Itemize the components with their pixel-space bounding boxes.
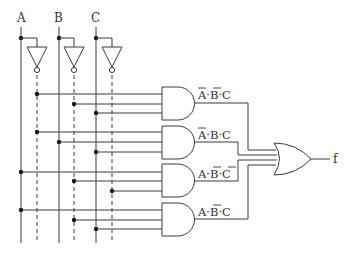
- inverter-c: [94, 36, 122, 243]
- or-gate-icon: [274, 143, 311, 175]
- inverter-triangle-icon: [102, 47, 122, 67]
- and-gate-icon: [162, 203, 195, 236]
- input-lines: [21, 27, 96, 243]
- and-gate-icon: [162, 164, 195, 197]
- and-gate-4: A·B·C: [19, 165, 276, 236]
- or-gate: f: [274, 143, 339, 175]
- and-gate-icon: [162, 87, 195, 120]
- output-label: f: [333, 152, 339, 166]
- inverter-bubble-icon: [34, 67, 39, 72]
- and-gate-1: A·B·C: [35, 87, 276, 150]
- term-2-text: A·B·C: [197, 128, 231, 142]
- and-gate-2: A·B·C: [35, 126, 277, 159]
- inverter-triangle-icon: [27, 47, 47, 67]
- inverter-bubble-icon: [109, 67, 114, 72]
- term-label-4: A·B·C: [197, 205, 231, 219]
- term-label-1: A·B·C: [197, 88, 231, 102]
- inverter-b: [57, 36, 84, 243]
- term-1-text: A·B·C: [197, 88, 231, 102]
- inverter-bubble-icon: [71, 67, 76, 72]
- term-3-text: A·B·C: [197, 167, 231, 181]
- term-4-text: A·B·C: [197, 205, 231, 219]
- input-label-b: B: [54, 11, 63, 25]
- input-label-a: A: [16, 11, 26, 25]
- and-gate-3: A·B·C: [19, 160, 277, 197]
- input-label-c: C: [91, 11, 100, 25]
- term-label-2: A·B·C: [197, 128, 231, 142]
- logic-circuit-diagram: A B C A·B·C: [0, 0, 350, 255]
- inverter-a: [19, 36, 47, 243]
- term-label-3: A·B·C: [197, 167, 236, 181]
- inverter-triangle-icon: [64, 47, 84, 67]
- and-gate-icon: [162, 126, 195, 159]
